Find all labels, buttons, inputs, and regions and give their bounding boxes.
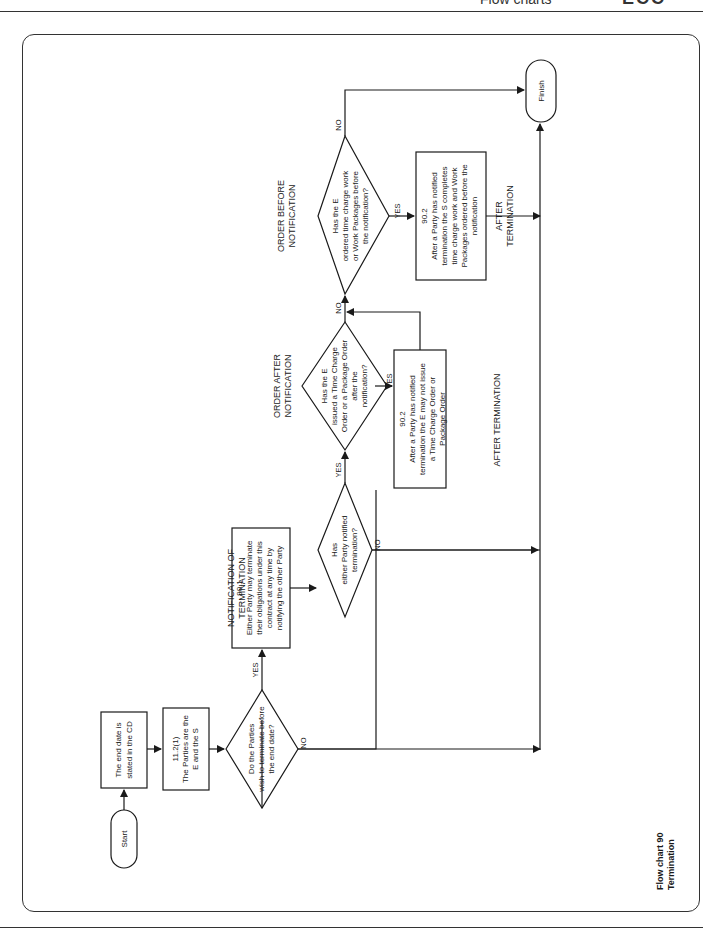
no-label-order-before: NO bbox=[334, 119, 343, 130]
parties-text: 11.2(1) The Parties are the E and the S bbox=[171, 714, 200, 783]
svg-text:Do the Parties: Do the Parties bbox=[247, 724, 256, 775]
no-label-order-after: NO bbox=[334, 302, 343, 313]
yes-label-order-after: YES bbox=[385, 373, 394, 388]
svg-text:a Time Charge Order or: a Time Charge Order or bbox=[428, 376, 437, 461]
yes-label-order-before: YES bbox=[393, 203, 402, 218]
yes-label-notified: YES bbox=[334, 462, 343, 477]
svg-text:their obligations under this: their obligations under this bbox=[255, 541, 264, 634]
svg-text:Has the E: Has the E bbox=[320, 368, 329, 403]
svg-text:NOTIFICATION: NOTIFICATION bbox=[287, 185, 297, 248]
svg-text:notification?: notification? bbox=[360, 364, 369, 407]
notification-of-termination-label: NOTIFICATION OF TERMINATION bbox=[226, 549, 247, 627]
svg-text:Packages ordered before the: Packages ordered before the bbox=[460, 164, 469, 268]
svg-text:NOTIFICATION OF: NOTIFICATION OF bbox=[226, 549, 236, 627]
notified-text: Has either Party notified termination? bbox=[330, 516, 359, 585]
svg-text:TERMINATION: TERMINATION bbox=[237, 557, 247, 618]
svg-text:Package Order: Package Order bbox=[438, 392, 447, 446]
svg-text:ordered time charge work: ordered time charge work bbox=[341, 170, 350, 262]
flowchart: Start Finish The end date is stated in t… bbox=[0, 0, 725, 943]
svg-text:The end date is: The end date is bbox=[114, 722, 123, 777]
svg-text:E and the S: E and the S bbox=[191, 728, 200, 770]
svg-text:90.2: 90.2 bbox=[420, 208, 429, 224]
order-after-box-text: 90.2 After a Party has notified terminat… bbox=[398, 362, 447, 475]
order-before-notification-label: ORDER BEFORE NOTIFICATION bbox=[276, 180, 297, 252]
no-label-wish: NO bbox=[299, 737, 308, 748]
svg-text:11.2(1): 11.2(1) bbox=[171, 736, 180, 761]
order-before-text: Has the E ordered time charge work or Wo… bbox=[331, 170, 370, 262]
svg-text:After a Party has notified: After a Party has notified bbox=[408, 375, 417, 463]
svg-text:wish to terminate before: wish to terminate before bbox=[257, 706, 266, 793]
no-label-notified: NO bbox=[373, 539, 382, 550]
svg-text:termination the E may not issu: termination the E may not issue bbox=[418, 362, 427, 475]
svg-text:After a Party has notified: After a Party has notified bbox=[430, 172, 439, 260]
svg-text:stated in the CD: stated in the CD bbox=[125, 721, 134, 779]
svg-text:Order or a Package Order: Order or a Package Order bbox=[340, 339, 349, 432]
svg-text:contract at any time by: contract at any time by bbox=[265, 548, 274, 628]
svg-text:either Party notified: either Party notified bbox=[340, 516, 349, 585]
finish-label: Finish bbox=[537, 80, 546, 101]
svg-text:NOTIFICATION: NOTIFICATION bbox=[283, 355, 293, 418]
order-after-notification-label: ORDER AFTER NOTIFICATION bbox=[272, 354, 293, 419]
end-date-box bbox=[101, 712, 147, 788]
order-after-text: Has the E issued a Time Charge Order or … bbox=[320, 339, 369, 432]
svg-text:90.2: 90.2 bbox=[398, 411, 407, 427]
svg-text:or Work Packages before: or Work Packages before bbox=[351, 170, 360, 261]
svg-text:the end date?: the end date? bbox=[267, 724, 276, 773]
svg-text:Has the E: Has the E bbox=[331, 198, 340, 233]
svg-text:Termination: Termination bbox=[666, 839, 676, 890]
svg-text:TERMINATION: TERMINATION bbox=[505, 185, 515, 246]
svg-text:The Parties are the: The Parties are the bbox=[181, 714, 190, 783]
svg-text:ORDER BEFORE: ORDER BEFORE bbox=[276, 180, 286, 252]
svg-text:time charge work and Work: time charge work and Work bbox=[450, 166, 459, 264]
svg-text:termination?: termination? bbox=[350, 527, 359, 572]
order-before-box-text: 90.2 After a Party has notified terminat… bbox=[420, 164, 479, 268]
svg-text:ORDER AFTER: ORDER AFTER bbox=[272, 354, 282, 419]
svg-text:the notification?: the notification? bbox=[361, 187, 370, 244]
svg-text:issued a Time Charge: issued a Time Charge bbox=[330, 347, 339, 425]
after-termination-label-2: AFTER TERMINATION bbox=[494, 185, 515, 246]
svg-text:termination the S completes: termination the S completes bbox=[440, 166, 449, 265]
yes-label-wish: YES bbox=[251, 662, 260, 677]
wish-terminate-text: Do the Parties wish to terminate before … bbox=[247, 706, 276, 793]
svg-text:after the: after the bbox=[350, 371, 359, 401]
svg-text:AFTER: AFTER bbox=[494, 201, 504, 231]
start-label: Start bbox=[120, 830, 129, 848]
svg-text:notifying the other Party: notifying the other Party bbox=[275, 546, 284, 631]
svg-text:Has: Has bbox=[330, 543, 339, 557]
flowchart-caption: Flow chart 90 Termination bbox=[655, 832, 676, 890]
end-date-text: The end date is stated in the CD bbox=[114, 721, 134, 779]
svg-text:Flow chart 90: Flow chart 90 bbox=[655, 832, 665, 890]
svg-text:notification: notification bbox=[470, 197, 479, 235]
after-termination-label-1: AFTER TERMINATION bbox=[492, 373, 502, 466]
